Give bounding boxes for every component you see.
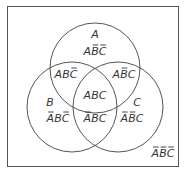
region-letter: C bbox=[99, 45, 107, 58]
region-letter: B bbox=[128, 112, 136, 125]
region-BC: ABC bbox=[83, 112, 107, 125]
region-letter: B bbox=[159, 147, 167, 160]
region-letter: A bbox=[83, 45, 92, 58]
venn-diagram: ABC ABCABCABCABCABCABCABCABC bbox=[0, 0, 186, 172]
region-letter: B bbox=[91, 89, 99, 102]
region-AC: ABC bbox=[112, 68, 136, 81]
region-letter: A bbox=[120, 112, 129, 125]
region-letter: A bbox=[54, 68, 63, 81]
set-label-c: C bbox=[133, 96, 141, 109]
region-letter: B bbox=[120, 68, 128, 81]
region-letter: C bbox=[99, 89, 107, 102]
region-none: ABC bbox=[151, 147, 175, 160]
set-label-b: B bbox=[46, 96, 54, 109]
region-letter: A bbox=[83, 89, 92, 102]
region-letter: A bbox=[151, 147, 160, 160]
region-letter: B bbox=[62, 68, 70, 81]
region-AB: ABC bbox=[54, 68, 78, 81]
region-letter: A bbox=[46, 112, 55, 125]
region-ABC: ABC bbox=[83, 89, 107, 102]
region-letter: C bbox=[70, 68, 78, 81]
region-letter: A bbox=[83, 112, 92, 125]
region-letter: B bbox=[91, 112, 99, 125]
region-letter: B bbox=[54, 112, 62, 125]
region-letter: B bbox=[91, 45, 99, 58]
region-C-only: ABC bbox=[120, 112, 144, 125]
region-letter: C bbox=[136, 112, 144, 125]
region-B-only: ABC bbox=[46, 112, 70, 125]
region-letter: C bbox=[62, 112, 70, 125]
region-letter: C bbox=[99, 112, 107, 125]
region-A-only: ABC bbox=[83, 45, 107, 58]
region-letter: C bbox=[167, 147, 175, 160]
region-letter: C bbox=[128, 68, 136, 81]
region-letter: A bbox=[112, 68, 121, 81]
set-label-a: A bbox=[90, 28, 99, 41]
